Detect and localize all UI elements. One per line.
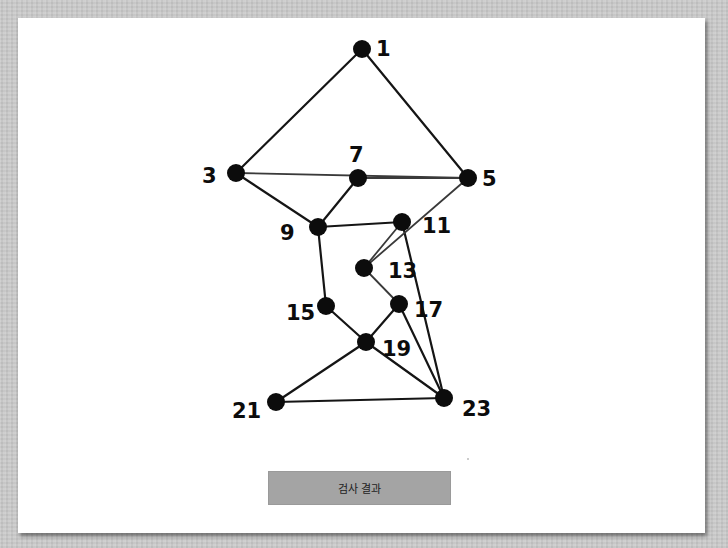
node-5 (459, 169, 477, 187)
node-1 (353, 40, 371, 58)
node-9 (309, 218, 327, 236)
node-23 (435, 389, 453, 407)
node-3 (227, 164, 245, 182)
edge-1-3 (236, 49, 362, 173)
node-7 (349, 169, 367, 187)
node-17 (390, 295, 408, 313)
node-label-11: 11 (422, 214, 451, 238)
node-11 (393, 213, 411, 231)
node-label-9: 9 (280, 221, 295, 245)
edge-9-15 (318, 227, 326, 306)
node-15 (317, 297, 335, 315)
edge-9-11 (318, 222, 402, 227)
node-label-19: 19 (382, 337, 411, 361)
node-label-17: 17 (414, 298, 443, 322)
graph-diagram: 1357911131517192123 (0, 0, 728, 548)
node-21 (267, 393, 285, 411)
edge-3-9 (236, 173, 318, 227)
node-label-13: 13 (388, 259, 417, 283)
labels-layer: 1357911131517192123 (202, 37, 497, 423)
check-result-button[interactable]: 검사 결과 (268, 471, 451, 505)
node-label-21: 21 (232, 399, 261, 423)
node-label-7: 7 (349, 143, 364, 167)
dust-speck (467, 458, 469, 460)
node-label-3: 3 (202, 164, 217, 188)
node-19 (357, 333, 375, 351)
edge-7-9 (318, 178, 358, 227)
node-label-23: 23 (462, 397, 491, 421)
node-label-1: 1 (376, 37, 391, 61)
node-13 (355, 259, 373, 277)
edge-19-21 (276, 342, 366, 402)
node-label-5: 5 (482, 167, 497, 191)
check-result-button-label: 검사 결과 (338, 480, 382, 496)
node-label-15: 15 (286, 301, 315, 325)
edge-21-23 (276, 398, 444, 402)
edge-1-5 (362, 49, 468, 178)
